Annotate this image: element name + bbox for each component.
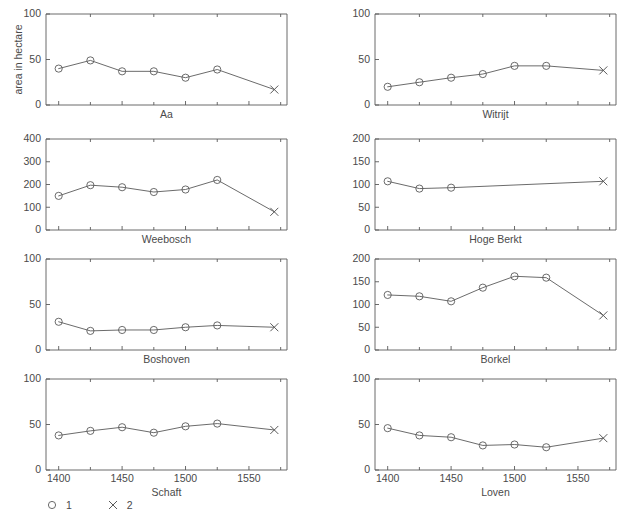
y-tick-label: 400 [23,132,41,144]
x-tick-label: 1500 [174,472,198,484]
y-tick-label: 50 [358,418,370,430]
panel-loven: 0501001400145015001550Loven [341,371,626,506]
y-tick-label: 300 [23,155,41,167]
panel-caption: Borkel [481,353,511,365]
y-tick-label: 100 [352,7,370,19]
y-tick-label: 0 [364,98,370,110]
cross-marker [270,208,278,216]
figure-canvas: 050100Aaarea in hectare050100Witrijt0100… [0,0,633,531]
y-tick-label: 100 [23,201,41,213]
y-tick-label: 100 [23,372,41,384]
panel-aa: 050100Aaarea in hectare [12,6,297,141]
series-line [388,428,604,447]
panel-weebosch: 0100200300400Weebosch [12,131,297,266]
panel-caption: Aa [160,108,173,120]
y-tick-label: 0 [35,223,41,235]
y-tick-label: 50 [29,53,41,65]
panel-schaft: 0501001400145015001550Schaft [12,371,297,506]
panel-boshoven: 050100Boshoven [12,251,297,386]
y-tick-label: 0 [364,223,370,235]
axis-frame [46,14,287,105]
series-line [59,180,275,212]
y-tick-label: 100 [352,372,370,384]
x-tick-label: 1400 [376,472,400,484]
y-tick-label: 100 [352,178,370,190]
cross-marker [106,498,120,512]
axis-frame [46,259,287,350]
panel-hoge-berkt: 050100150200Hoge Berkt [341,131,626,266]
panel-caption: Hoge Berkt [469,233,522,245]
y-tick-label: 50 [29,418,41,430]
series-line [59,322,275,331]
series-line [59,424,275,436]
cross-marker [599,311,607,319]
y-tick-label: 150 [352,275,370,287]
circle-marker [45,498,59,512]
x-tick-label: 1400 [47,472,71,484]
axis-frame [46,139,287,230]
axis-frame [375,139,616,230]
legend-entry: 1 [45,498,72,512]
y-tick-label: 100 [23,252,41,264]
legend-label: 1 [66,500,72,511]
axis-frame [375,14,616,105]
series-line [59,60,275,89]
axis-frame [375,259,616,350]
y-tick-label: 200 [352,132,370,144]
figure-legend: 12 [45,495,133,515]
y-tick-label: 0 [364,343,370,355]
x-tick-label: 1450 [439,472,463,484]
y-tick-label: 100 [352,298,370,310]
y-tick-label: 200 [23,178,41,190]
y-tick-label: 200 [352,252,370,264]
panel-caption: Schaft [152,486,182,498]
y-tick-label: 0 [35,343,41,355]
y-tick-label: 100 [23,7,41,19]
series-line [388,66,604,87]
y-tick-label: 50 [358,201,370,213]
panel-borkel: 050100150200Borkel [341,251,626,386]
y-tick-label: 50 [29,298,41,310]
x-tick-label: 1550 [566,472,590,484]
y-tick-label: 0 [35,98,41,110]
axis-frame [375,379,616,470]
y-tick-label: 0 [35,463,41,475]
y-axis-label: area in hectare [12,24,24,94]
x-tick-label: 1500 [503,472,527,484]
axis-frame [46,379,287,470]
panel-caption: Boshoven [143,353,190,365]
x-tick-label: 1450 [110,472,134,484]
y-tick-label: 50 [358,53,370,65]
cross-marker [270,86,278,94]
footer-caption [6,521,406,531]
panel-witrijt: 050100Witrijt [341,6,626,141]
panel-caption: Weebosch [142,233,192,245]
y-tick-label: 50 [358,321,370,333]
series-line [388,276,604,315]
panel-caption: Witrijt [482,108,508,120]
x-tick-label: 1550 [237,472,261,484]
y-tick-label: 150 [352,155,370,167]
legend-entry: 2 [106,498,133,512]
panel-caption: Loven [481,486,510,498]
y-tick-label: 0 [364,463,370,475]
legend-label: 2 [127,500,133,511]
